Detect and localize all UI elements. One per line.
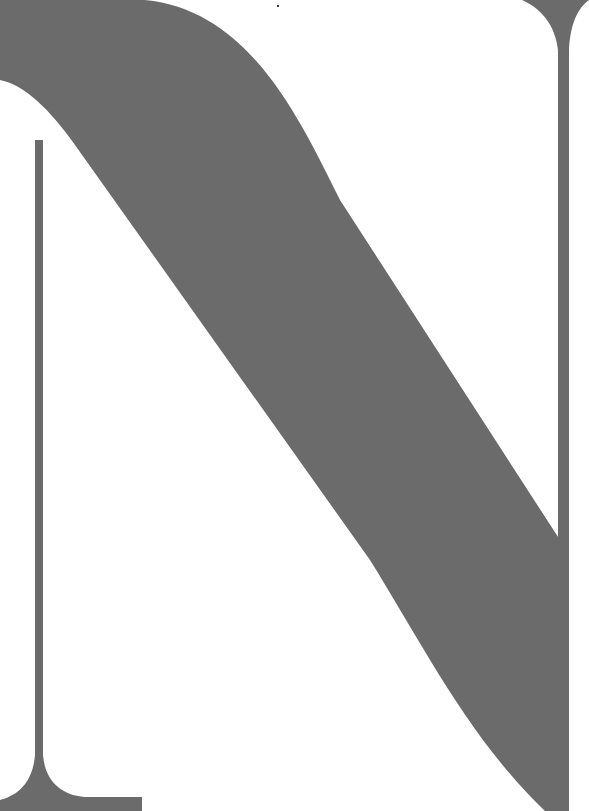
- letter-n-glyph: [0, 0, 589, 811]
- left-edge-fragment: [0, 0, 10, 80]
- diagonal-stroke: [0, 0, 560, 811]
- letter-n-artwork: [0, 0, 589, 811]
- left-stem: [0, 140, 142, 811]
- speck: [277, 5, 279, 7]
